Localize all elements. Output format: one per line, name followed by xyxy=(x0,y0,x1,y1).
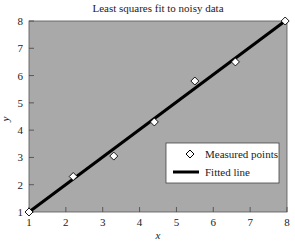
y-tick-label: 8 xyxy=(18,15,24,27)
y-tick-label: 2 xyxy=(18,179,24,191)
x-tick-label: 8 xyxy=(284,216,290,228)
y-axis-label: y xyxy=(0,116,11,122)
y-tick-label: 1 xyxy=(18,206,24,218)
y-tick-label: 3 xyxy=(18,151,24,163)
chart: Least squares fit to noisy data 12345678… xyxy=(0,0,295,244)
y-tick-label: 7 xyxy=(18,42,24,54)
chart-title: Least squares fit to noisy data xyxy=(92,2,223,14)
x-tick-label: 7 xyxy=(247,216,253,228)
legend-label-points: Measured points xyxy=(205,148,278,160)
x-tick-label: 5 xyxy=(174,216,180,228)
y-tick-label: 4 xyxy=(18,124,24,136)
y-tick-label: 5 xyxy=(18,97,24,109)
legend-label-line: Fitted line xyxy=(205,166,250,178)
x-tick-label: 4 xyxy=(137,216,143,228)
x-tick-label: 2 xyxy=(63,216,69,228)
x-tick-label: 3 xyxy=(100,216,106,228)
x-tick-label: 6 xyxy=(211,216,217,228)
legend: Measured points Fitted line xyxy=(166,143,279,183)
x-tick-label: 1 xyxy=(26,216,32,228)
y-tick-label: 6 xyxy=(18,70,24,82)
x-axis-label: x xyxy=(155,229,161,241)
